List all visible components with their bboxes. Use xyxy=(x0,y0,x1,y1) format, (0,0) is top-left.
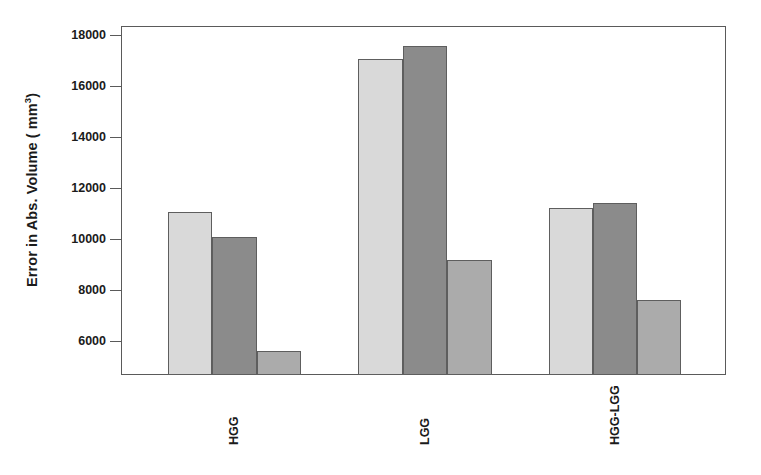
bar-hgg-lgg-series-3 xyxy=(637,300,681,375)
y-axis-tick-label: 8000 xyxy=(62,283,106,297)
bar-hgg-lgg-series-2 xyxy=(593,203,637,375)
x-axis-category-label: HGG-LGG xyxy=(608,385,622,445)
bar-hgg-lgg-series-1 xyxy=(549,208,593,375)
y-axis-title-text: Error in Abs. Volume ( mm3) xyxy=(22,93,40,287)
y-axis-tick-mark xyxy=(110,137,121,138)
bar-lgg-series-3 xyxy=(447,260,492,375)
y-axis-tick-mark xyxy=(110,86,121,87)
y-axis-tick-label: 14000 xyxy=(62,130,106,144)
y-axis-title: Error in Abs. Volume ( mm3) xyxy=(0,0,62,380)
bar-lgg-series-1 xyxy=(358,59,403,375)
y-axis-tick-label: 10000 xyxy=(62,232,106,246)
y-axis-tick-label: 6000 xyxy=(62,334,106,348)
bar-lgg-series-2 xyxy=(403,46,448,375)
y-axis-title-main: Error in Abs. Volume ( mm xyxy=(24,103,40,287)
y-axis-tick-mark xyxy=(110,188,121,189)
x-axis-category-label: LGG xyxy=(418,418,432,445)
bar-hgg-series-1 xyxy=(168,212,213,375)
y-axis-tick-label: 12000 xyxy=(62,181,106,195)
y-axis-tick-mark xyxy=(110,239,121,240)
x-axis-category-label: HGG xyxy=(227,417,241,445)
y-axis-tick-mark xyxy=(110,341,121,342)
bar-hgg-series-3 xyxy=(257,351,302,375)
bar-chart-figure: Error in Abs. Volume ( mm3) 600080001000… xyxy=(0,0,761,475)
bar-hgg-series-2 xyxy=(212,237,257,375)
y-axis-tick-mark xyxy=(110,35,121,36)
y-axis-title-exponent: 3 xyxy=(22,98,33,103)
y-axis-title-suffix: ) xyxy=(24,93,40,98)
y-axis-tick-mark xyxy=(110,290,121,291)
y-axis-tick-label: 16000 xyxy=(62,79,106,93)
y-axis-tick-label: 18000 xyxy=(62,28,106,42)
